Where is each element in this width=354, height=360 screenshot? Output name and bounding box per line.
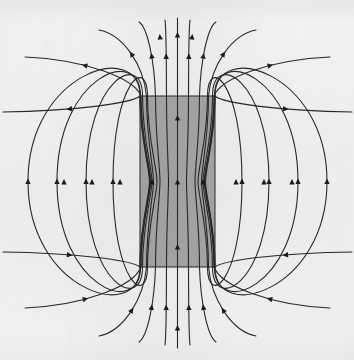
arrowhead-flare-field-line-interior-line-1-right-above [186,53,191,59]
arrowhead-flare-field-line-interior-line-1-right-below [186,304,191,310]
arrowhead-field-line-loop-4-right [324,178,329,184]
field-line-corner-line-open-right-below [215,252,352,267]
arrowhead-flare-field-line-corner-line-open-left-above [66,106,72,112]
arrowhead-13-outside-right [233,179,238,185]
arrowhead-15-outside-right [289,179,294,185]
arrowhead-flare-field-line-edge-line-open-left-below [82,296,89,303]
arrowhead-flare-field-line-edge-line-open-right-above [267,62,274,69]
arrowhead-flare-field-line-interior-line-3-left-below [128,306,136,314]
arrowhead-flare-field-line-edge-line-open-left-above [81,62,88,69]
arrowhead-flare-field-line-interior-line-3-right-below [219,306,227,314]
arrowhead-field-line-loop-1-left [110,178,115,184]
field-line-diagram [0,0,354,360]
field-line-loop-3-right [215,72,299,292]
field-line-loop-3-left [57,72,141,292]
arrowhead-field-line-loop-4-left [25,178,30,184]
arrowhead-field-line-loop-1-right [239,178,244,184]
arrowhead-flare-field-line-edge-line-open-right-below [266,296,273,303]
arrowhead-11-outside-left [89,179,94,185]
arrowhead-flare-field-line-corner-line-open-right-above [283,106,289,112]
figure-container: Field lines run upward inside a gray rec… [0,0,354,360]
arrowhead-field-line-loop-3-left [54,178,59,184]
arrowhead-1-above-magnet [175,32,180,38]
arrowhead-flare-field-line-interior-line-1-left-above [163,53,168,59]
arrowhead-field-line-loop-2-left [83,178,88,184]
arrowhead-12-outside-left [61,179,66,185]
arrowhead-5-below-magnet [175,325,180,331]
arrowhead-6-above-magnet [189,34,195,40]
field-line-corner-line-open-left-below [3,252,140,267]
arrowhead-10-outside-left [117,179,122,185]
arrowhead-7-above-magnet [157,34,163,40]
arrowhead-field-line-loop-3-right [295,178,300,184]
arrowhead-flare-field-line-corner-line-open-left-below [67,252,73,258]
arrowhead-flare-field-line-interior-line-1-left-below [163,304,168,310]
arrowhead-flare-field-line-interior-line-3-left-above [127,50,135,58]
arrowhead-flare-field-line-corner-line-open-right-below [282,252,288,258]
arrowhead-14-outside-right [261,179,266,185]
arrowhead-flare-field-line-interior-line-3-right-above [220,50,228,58]
arrowhead-field-line-loop-2-right [266,178,271,184]
